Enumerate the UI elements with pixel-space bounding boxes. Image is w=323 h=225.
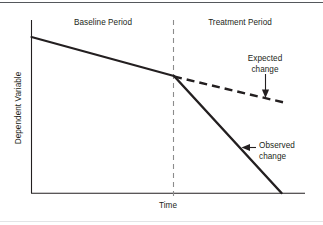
chart-canvas bbox=[0, 0, 323, 225]
period-label-baseline: Baseline Period bbox=[74, 18, 132, 29]
annotation-observed-change-line2: change bbox=[259, 152, 295, 163]
figure-container: Baseline Period Treatment Period Depende… bbox=[0, 0, 323, 225]
annotation-expected-change-line2: change bbox=[248, 65, 283, 76]
y-axis-label: Dependent Variable bbox=[14, 72, 25, 145]
annotation-observed-change: Observed change bbox=[259, 141, 295, 162]
down-arrow-icon bbox=[262, 74, 269, 98]
annotation-observed-change-line1: Observed bbox=[259, 141, 295, 150]
expected-change-line bbox=[174, 77, 286, 104]
annotation-expected-change-line1: Expected bbox=[248, 54, 283, 63]
x-axis-label: Time bbox=[159, 201, 177, 212]
period-label-treatment: Treatment Period bbox=[208, 18, 272, 29]
annotation-expected-change: Expected change bbox=[248, 54, 283, 75]
baseline-trend-line bbox=[32, 37, 175, 76]
left-arrow-icon bbox=[242, 144, 257, 151]
